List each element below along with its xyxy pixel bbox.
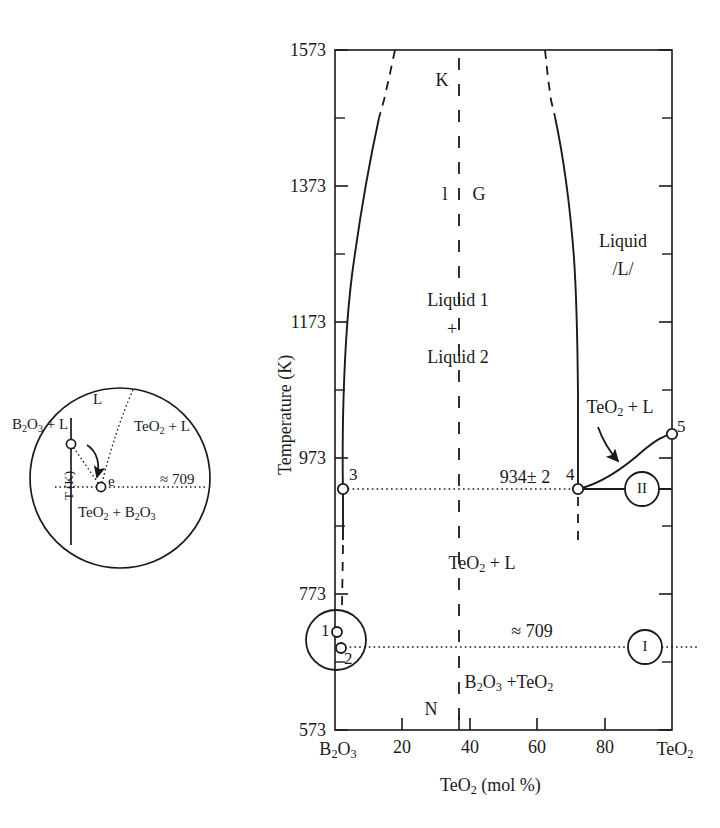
inset-axis-label: T (K) xyxy=(62,471,75,500)
region-label-N: N xyxy=(420,700,442,718)
point-label-4: 4 xyxy=(566,466,575,483)
y-axis-minor-ticks xyxy=(335,118,672,662)
x-tick-label-40: 40 xyxy=(450,738,490,756)
phase-diagram-figure: Temperature (K) 1573 1373 1173 973 773 5… xyxy=(0,0,720,828)
point-marker-3 xyxy=(338,484,348,494)
region-label-liquid: Liquid xyxy=(588,232,658,250)
point-marker-1 xyxy=(332,627,342,637)
y-tick-label-573: 573 xyxy=(266,721,326,739)
invariant-point-markers xyxy=(332,429,677,653)
eutectic-temperature-label: ≈ 709 xyxy=(487,622,577,640)
x-axis-endpoint-b2o3: B2O3 xyxy=(306,740,370,761)
region-label-l: l xyxy=(436,185,454,203)
x-axis-title: TeO2 (mol %) xyxy=(440,776,541,797)
x-axis-endpoint-teo2: TeO2 xyxy=(640,740,710,761)
y-tick-label-1173: 1173 xyxy=(266,313,326,331)
point-label-2: 2 xyxy=(344,650,353,667)
x-tick-label-60: 60 xyxy=(517,738,557,756)
region-label-liquid1: Liquid 1 xyxy=(408,291,508,309)
callout-label-I: I xyxy=(638,639,652,654)
y-tick-label-1573: 1573 xyxy=(266,41,326,59)
inset-label-b2o3-plus-L: B2O3 + L xyxy=(12,417,68,434)
y-tick-label-973: 973 xyxy=(266,449,326,467)
inset-point-marker-upper xyxy=(66,439,75,448)
inset-label-teo2-plus-b2o3: TeO2 + B2O3 xyxy=(78,505,156,522)
magnified-region-circle xyxy=(306,610,366,670)
miscibility-gap-right-branch xyxy=(545,50,578,489)
region-label-G: G xyxy=(468,185,490,203)
teo2-liquidus-annotation-arrow xyxy=(598,427,618,461)
region-label-teo2-plus-L-mid: TeO2 + L xyxy=(432,554,532,575)
left-branch-subsolidus-dashes xyxy=(342,545,343,606)
region-label-liquid-bracket: /L/ xyxy=(588,260,658,278)
region-label-liquid2: Liquid 2 xyxy=(408,348,508,366)
inset-label-L: L xyxy=(93,392,102,407)
callout-label-II: II xyxy=(632,481,652,496)
teo2-liquidus-curve xyxy=(578,434,672,489)
point-label-1: 1 xyxy=(321,622,330,639)
inset-point-marker-eutectic xyxy=(96,482,105,491)
point-marker-5 xyxy=(667,429,677,439)
region-label-K: K xyxy=(430,71,454,89)
inset-label-eutectic-point: e xyxy=(108,474,115,489)
x-tick-label-20: 20 xyxy=(382,738,422,756)
point-label-3: 3 xyxy=(349,466,358,483)
y-tick-label-1373: 1373 xyxy=(266,177,326,195)
inset-annotation-arrow xyxy=(87,445,98,477)
inset-right-liquidus xyxy=(101,390,133,487)
region-label-teo2-plus-L-upper: TeO2 + L xyxy=(570,398,670,419)
inset-eutectic-temperature-label: ≈ 709 xyxy=(160,472,194,487)
y-tick-label-773: 773 xyxy=(266,585,326,603)
point-label-5: 5 xyxy=(677,418,686,435)
inset-label-teo2-plus-L: TeO2 + L xyxy=(134,419,190,436)
monotectic-temperature-label: 934± 2 xyxy=(470,468,580,486)
region-label-plus: + xyxy=(430,320,474,338)
region-label-b2o3-plus-teo2: B2O3 +TeO2 xyxy=(434,673,584,694)
x-tick-label-80: 80 xyxy=(585,738,625,756)
